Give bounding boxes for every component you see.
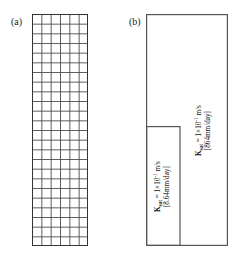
mesh-vertical-lines bbox=[42, 14, 79, 246]
block-svg bbox=[146, 14, 228, 246]
panel-b-block bbox=[146, 14, 228, 246]
panel-label-a: (a) bbox=[11, 16, 22, 27]
lower-zone-outline bbox=[147, 127, 180, 246]
mesh-svg bbox=[32, 14, 88, 246]
outer-block-outline bbox=[147, 15, 228, 246]
panel-label-b: (b) bbox=[129, 16, 141, 27]
figure-container: (a) (b) Ksat = 1×10-1 m/s [864mm/day] Ks… bbox=[0, 0, 236, 256]
panel-a-mesh bbox=[32, 14, 88, 246]
